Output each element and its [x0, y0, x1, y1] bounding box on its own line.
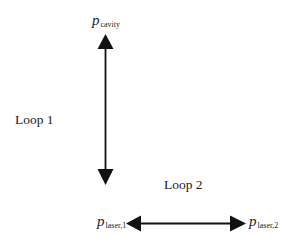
- laser-2-subscript: laser,2: [258, 221, 279, 230]
- horizontal-double-arrow: [126, 216, 246, 232]
- laser-1-subscript: laser,1: [106, 221, 127, 230]
- arrow-head-down-icon: [98, 169, 114, 185]
- arrow-head-left-icon: [126, 216, 141, 232]
- node-label-laser-2: plaser,2: [249, 213, 278, 229]
- node-label-laser-1: plaser,1: [97, 213, 126, 229]
- vertical-double-arrow: [98, 34, 114, 185]
- laser-1-symbol: p: [97, 213, 105, 229]
- loop-2-label: Loop 2: [164, 178, 203, 192]
- node-label-cavity: pcavity: [92, 12, 120, 28]
- loop-1-label: Loop 1: [15, 113, 54, 127]
- cavity-symbol: p: [92, 12, 100, 28]
- laser-2-symbol: p: [249, 213, 257, 229]
- arrow-head-up-icon: [98, 34, 114, 49]
- cavity-subscript: cavity: [101, 20, 121, 29]
- arrow-head-right-icon: [230, 216, 246, 232]
